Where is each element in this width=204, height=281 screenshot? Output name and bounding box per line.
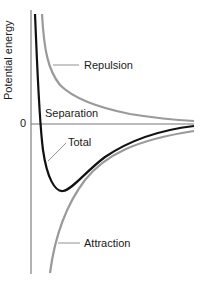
x-axis-label: Separation	[45, 108, 98, 119]
total-leader	[48, 143, 66, 161]
repulsion-label: Repulsion	[84, 60, 133, 71]
y-axis-label: Potential energy	[3, 21, 14, 101]
zero-tick-label: 0	[20, 118, 26, 129]
attraction-curve	[50, 131, 194, 273]
total-curve	[35, 14, 194, 191]
attraction-label: Attraction	[84, 238, 130, 249]
total-label: Total	[68, 137, 91, 148]
